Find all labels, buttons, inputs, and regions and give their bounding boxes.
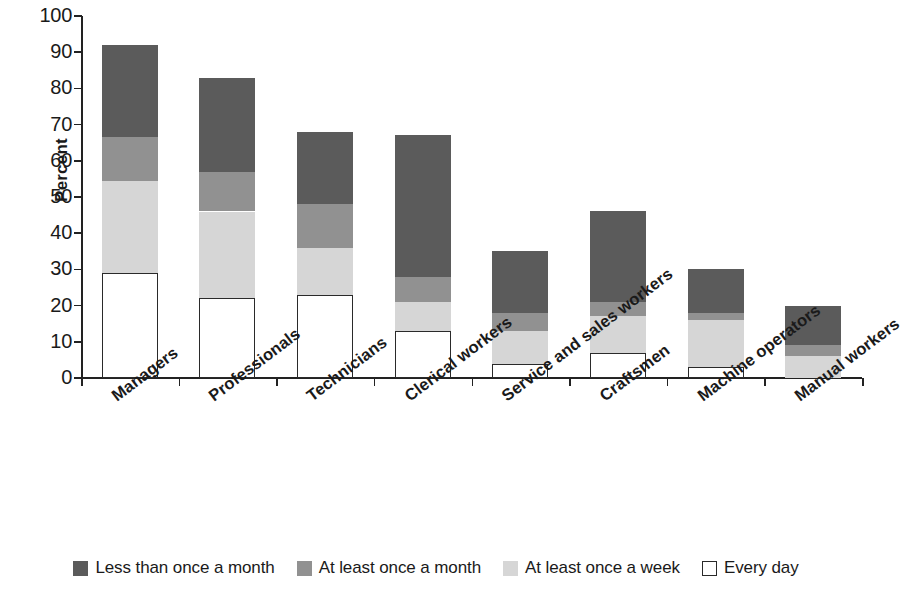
legend-item[interactable]: At least once a month xyxy=(297,558,481,578)
swatch-light-gray-icon xyxy=(503,561,518,576)
legend-label: Every day xyxy=(724,558,799,578)
x-axis-label-service-and-sales-workers: Service and sales workers xyxy=(498,264,676,405)
legend-item[interactable]: Every day xyxy=(702,558,799,578)
x-axis-label-managers: Managers xyxy=(108,343,182,405)
swatch-dark-gray-icon xyxy=(73,561,88,576)
legend-label: At least once a month xyxy=(319,558,481,578)
legend-item[interactable]: Less than once a month xyxy=(73,558,274,578)
legend-label: At least once a week xyxy=(525,558,680,578)
x-axis-label-professionals: Professionals xyxy=(205,324,304,405)
legend-item[interactable]: At least once a week xyxy=(503,558,680,578)
chart-legend: Less than once a monthAt least once a mo… xyxy=(0,558,872,578)
legend-label: Less than once a month xyxy=(95,558,274,578)
x-axis-label-technicians: Technicians xyxy=(303,333,391,405)
swatch-white-outline-icon xyxy=(702,561,717,576)
x-axis-label-craftsmen: Craftsmen xyxy=(596,340,673,405)
swatch-medium-gray-icon xyxy=(297,561,312,576)
